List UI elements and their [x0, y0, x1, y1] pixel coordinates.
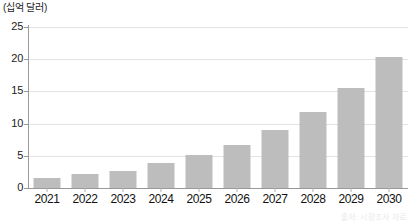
bar-2021: [34, 178, 61, 188]
bar-2022: [72, 174, 99, 188]
source-note: 출처: 시장조사 자료: [341, 213, 406, 222]
x-axis-label-2030: 2030: [370, 192, 408, 207]
bar-slot: [142, 27, 180, 188]
y-tick-20: [24, 59, 29, 60]
chart-screenshot: (십억 달러) 0510152025 202120222023202420252…: [0, 0, 412, 222]
x-axis-label-2022: 2022: [66, 192, 104, 207]
bar-slot: [28, 27, 66, 188]
bar-slot: [180, 27, 218, 188]
x-axis-label-2023: 2023: [104, 192, 142, 207]
x-axis-label-2029: 2029: [332, 192, 370, 207]
y-tick-label-0: 0: [1, 182, 23, 193]
y-tick-25: [24, 27, 29, 28]
bar-series: [28, 27, 408, 188]
y-tick-10: [24, 124, 29, 125]
bar-2023: [110, 171, 137, 188]
y-tick-0: [24, 188, 29, 189]
x-axis-label-2027: 2027: [256, 192, 294, 207]
bar-2029: [338, 88, 365, 188]
y-tick-5: [24, 156, 29, 157]
x-axis-label-2028: 2028: [294, 192, 332, 207]
bar-2028: [300, 112, 327, 188]
x-axis-label-2025: 2025: [180, 192, 218, 207]
y-tick-label-10: 10: [1, 118, 23, 129]
bar-slot: [66, 27, 104, 188]
y-tick-label-15: 15: [1, 85, 23, 96]
bar-2027: [262, 130, 289, 188]
y-tick-label-20: 20: [1, 53, 23, 64]
y-axis-labels: 0510152025: [0, 0, 23, 222]
x-axis-label-2024: 2024: [142, 192, 180, 207]
y-tick-label-25: 25: [1, 21, 23, 32]
x-axis-labels: 2021202220232024202520262027202820292030: [28, 192, 408, 210]
bar-2026: [224, 145, 251, 188]
bar-2025: [186, 155, 213, 188]
y-tick-label-5: 5: [1, 150, 23, 161]
bar-slot: [218, 27, 256, 188]
bar-slot: [332, 27, 370, 188]
bar-2024: [148, 163, 175, 188]
x-axis-label-2021: 2021: [28, 192, 66, 207]
bar-slot: [256, 27, 294, 188]
x-axis-label-2026: 2026: [218, 192, 256, 207]
bar-slot: [104, 27, 142, 188]
bar-2030: [376, 57, 403, 188]
bar-slot: [294, 27, 332, 188]
y-tick-15: [24, 91, 29, 92]
bar-slot: [370, 27, 408, 188]
